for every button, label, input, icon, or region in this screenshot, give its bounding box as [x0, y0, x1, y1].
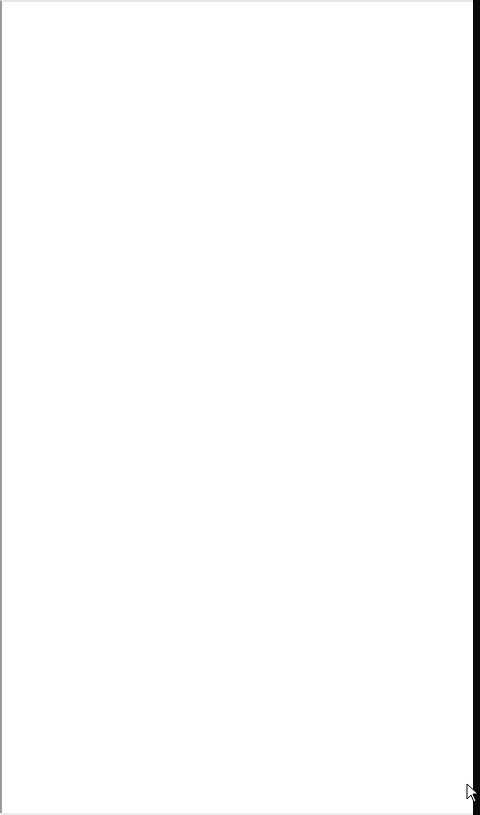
mouse-pointer-icon: [466, 783, 480, 803]
blank-page-viewport[interactable]: [0, 0, 473, 815]
screen: [0, 0, 480, 815]
right-edge-bar: [473, 0, 480, 815]
